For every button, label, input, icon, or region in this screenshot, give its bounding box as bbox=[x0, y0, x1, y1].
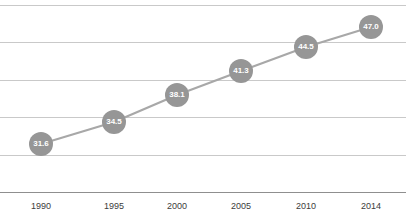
line-chart: 31.6 34.5 38.1 41.3 44.5 47.0 1990 1995 … bbox=[0, 0, 417, 219]
data-point-marker[interactable] bbox=[102, 110, 126, 134]
x-axis-tick-label: 2010 bbox=[296, 202, 316, 211]
data-point-marker[interactable] bbox=[165, 83, 189, 107]
x-axis-tick-label: 2000 bbox=[167, 202, 187, 211]
data-point-marker[interactable] bbox=[229, 59, 253, 83]
series-graphics bbox=[0, 0, 417, 219]
series-line bbox=[41, 27, 371, 144]
plot-area: 31.6 34.5 38.1 41.3 44.5 47.0 1990 1995 … bbox=[0, 0, 417, 219]
x-axis-tick-label: 1995 bbox=[104, 202, 124, 211]
x-axis-tick-label: 2014 bbox=[361, 202, 381, 211]
data-point-marker[interactable] bbox=[359, 15, 383, 39]
data-point-marker[interactable] bbox=[29, 132, 53, 156]
data-point-marker[interactable] bbox=[294, 35, 318, 59]
x-axis-tick-label: 1990 bbox=[31, 202, 51, 211]
x-axis-tick-label: 2005 bbox=[231, 202, 251, 211]
